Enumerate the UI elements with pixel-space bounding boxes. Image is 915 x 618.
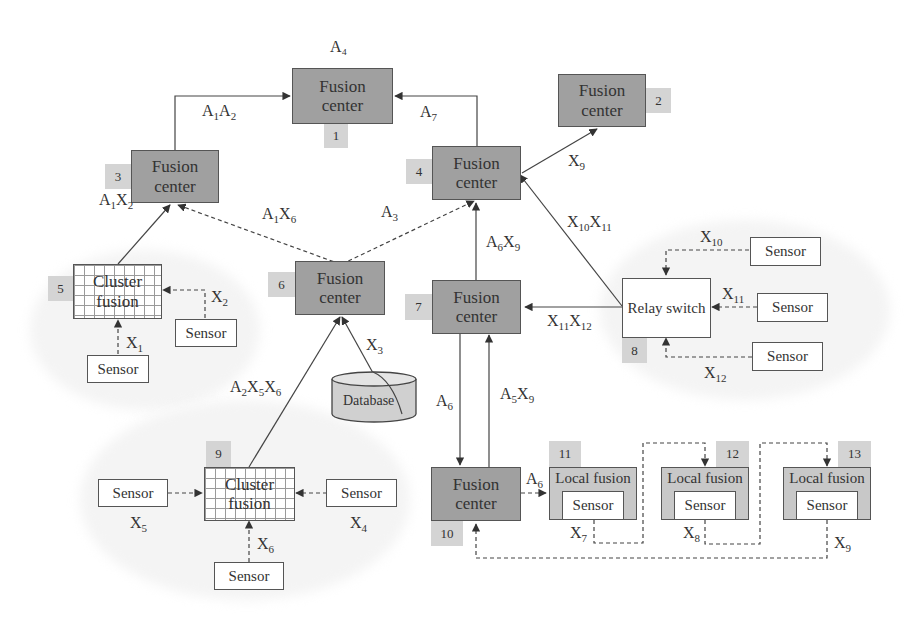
node-number-2: 2 [646,88,671,113]
fusion-center-7[interactable]: Fusioncenter [432,280,521,334]
label-a6x9: A6X9 [486,233,520,253]
node-label: Fusion [453,154,499,173]
label-x9-bottom: X9 [834,534,851,554]
label-a1a2: A1A2 [202,102,236,122]
sensor-x11[interactable]: Sensor [757,293,828,322]
label-a6-down: A6 [436,392,453,412]
node-label: center [455,494,497,513]
embedded-sensor: Sensor [562,491,624,519]
node-label: fusion [96,292,139,311]
node-label: fusion [228,494,271,513]
node-number-10: 10 [431,521,463,546]
sensor-x6[interactable]: Sensor [214,562,284,590]
label-x10: X10 [700,228,723,248]
node-number-8: 8 [622,338,647,363]
label-x11x12: X11X12 [547,312,592,332]
label-x12: X12 [704,364,727,384]
label-a2x5x6: A2X5X6 [230,378,281,398]
node-number-12: 12 [716,441,749,467]
label-x6: X6 [257,535,274,555]
embedded-sensor: Sensor [796,491,858,519]
label-a1x6: A1X6 [262,205,296,225]
fusion-center-4[interactable]: Fusioncenter [432,146,521,200]
label-a5x9: A5X9 [500,385,534,405]
sensor-x5[interactable]: Sensor [98,479,168,507]
node-number-11: 11 [549,441,581,467]
node-label: center [581,101,623,120]
node-label: Fusion [317,269,363,288]
label-a1x2: A1X2 [99,191,133,211]
node-label: Fusion [453,288,499,307]
label-x2: X2 [211,288,228,308]
node-label: center [154,177,196,196]
label-x3: X3 [366,336,383,356]
local-fusion-12[interactable]: Local fusion Sensor [661,467,749,520]
node-label: Fusion [453,475,499,494]
node-label: Cluster [93,272,142,291]
sensor-x1[interactable]: Sensor [87,355,149,383]
node-label: Fusion [152,157,198,176]
label-x8: X8 [683,524,700,544]
sensor-x4[interactable]: Sensor [326,479,397,507]
fusion-center-2[interactable]: Fusioncenter [558,74,646,127]
label-x5: X5 [130,514,147,534]
node-label: center [319,288,361,307]
node-number-6: 6 [268,272,295,297]
fusion-center-6[interactable]: Fusioncenter [295,261,385,315]
label-x10x11: X10X11 [567,213,612,233]
node-number-5: 5 [48,276,73,301]
node-number-3: 3 [105,164,131,189]
cluster-fusion-9[interactable]: Clusterfusion [204,467,295,521]
node-label: center [322,96,364,115]
sensor-x2[interactable]: Sensor [175,319,237,347]
fusion-center-1[interactable]: Fusioncenter [292,68,393,124]
local-fusion-13[interactable]: Local fusion Sensor [783,467,871,520]
cluster-fusion-5[interactable]: Clusterfusion [73,264,162,319]
node-number-7: 7 [405,294,432,320]
node-number-1: 1 [324,124,348,148]
node-label: Local fusion [555,470,630,487]
node-number-13: 13 [838,441,871,467]
node-label: center [456,173,498,192]
local-fusion-11[interactable]: Local fusion Sensor [549,467,637,520]
label-a3: A3 [381,203,398,223]
label-a4: A₄ [330,38,347,56]
node-label: Cluster [225,475,274,494]
sensor-x10[interactable]: Sensor [750,237,821,266]
database-label: Database [343,393,394,409]
node-label: center [456,307,498,326]
embedded-sensor: Sensor [674,491,736,519]
node-label: Fusion [579,81,625,100]
relay-switch-8[interactable]: Relay switch [622,278,711,338]
node-number-9: 9 [206,441,231,467]
label-x9-top: X9 [568,152,585,172]
node-label: Local fusion [667,470,742,487]
label-a7: A7 [420,103,437,123]
node-label: Local fusion [789,470,864,487]
fusion-center-10[interactable]: Fusioncenter [431,467,521,521]
fusion-center-3[interactable]: Fusioncenter [131,150,219,203]
label-x1: X1 [126,334,143,354]
node-label: Fusion [319,77,365,96]
label-x11: X11 [722,285,744,305]
label-x7: X7 [570,524,587,544]
sensor-x12[interactable]: Sensor [752,342,823,371]
node-number-4: 4 [406,159,432,184]
label-x4: X4 [350,514,367,534]
fusion-network-diagram: Fusioncenter 1 A₄ Fusioncenter 2 Fusionc… [0,0,915,618]
label-a6-right: A6 [526,470,543,490]
